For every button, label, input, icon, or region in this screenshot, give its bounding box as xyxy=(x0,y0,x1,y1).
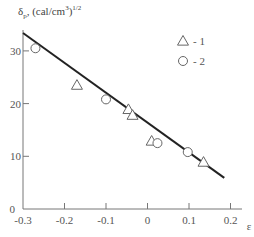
x-tick-label: -0.2 xyxy=(56,214,73,226)
scatter-plot: -0.3-0.2-0.100.10.20102030ε- 1- 2 xyxy=(0,0,254,237)
legend-triangle-icon xyxy=(178,36,189,46)
circle-marker xyxy=(153,139,162,148)
circle-marker xyxy=(31,44,40,53)
x-tick-label: 0 xyxy=(145,214,151,226)
x-tick-label: -0.3 xyxy=(14,214,32,226)
circle-marker xyxy=(183,148,192,157)
y-tick-label: 0 xyxy=(10,203,16,215)
legend-circle-icon xyxy=(179,57,188,66)
triangle-marker xyxy=(71,80,82,90)
x-axis-label: ε xyxy=(247,220,252,232)
y-tick-label: 10 xyxy=(10,150,22,162)
y-tick-label: 20 xyxy=(10,98,22,110)
y-tick-label: 30 xyxy=(10,45,22,57)
legend-label-2: - 2 xyxy=(193,55,205,67)
x-tick-label: -0.1 xyxy=(97,214,114,226)
circle-marker xyxy=(102,95,111,104)
x-tick-label: 0.2 xyxy=(224,214,238,226)
x-tick-label: 0.1 xyxy=(182,214,196,226)
legend-label-1: - 1 xyxy=(193,35,205,47)
